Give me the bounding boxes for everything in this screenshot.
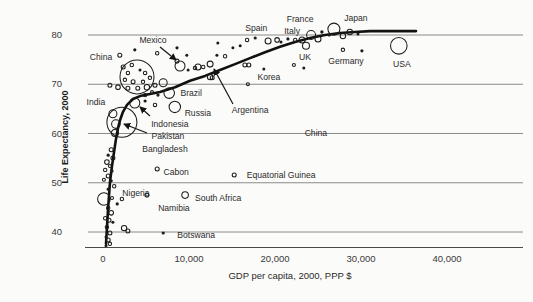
data-point (294, 38, 297, 41)
label-south-africa: South Africa (195, 193, 242, 203)
data-point (116, 202, 119, 205)
data-point (102, 178, 105, 181)
data-point-usa (391, 38, 408, 55)
y-axis-title: Life Expectancy, 2000 (60, 91, 70, 184)
data-point (185, 54, 188, 57)
x-tick-label: 0 (100, 253, 105, 264)
data-point (280, 40, 283, 43)
country-labels: ChinaIndiaUSAJapanNigeriaRussiaBrazilMex… (87, 13, 411, 240)
label-china: China (90, 52, 113, 62)
label-botswana: Botswana (177, 230, 215, 240)
data-point (111, 221, 114, 224)
data-point-argentina (207, 61, 213, 67)
data-point (148, 76, 151, 79)
label-italy: Italy (284, 26, 300, 36)
label-usa: USA (393, 59, 411, 69)
x-tick-label: 30,000 (346, 253, 375, 264)
data-point (231, 46, 234, 49)
label-mexico: Mexico (139, 35, 166, 45)
x-tick-label: 40,000 (432, 253, 461, 264)
label-indonesia: Indonesia (151, 119, 188, 129)
y-tick-label: 70 (51, 78, 62, 89)
arrow-mexico (160, 47, 176, 60)
data-point (105, 244, 108, 247)
label-russia: Russia (185, 108, 211, 118)
data-point (153, 103, 156, 106)
data-point (130, 63, 133, 66)
data-point (292, 64, 295, 67)
data-point (262, 68, 265, 71)
label-pakistan: Pakistan (151, 131, 184, 141)
label-uk: UK (299, 52, 311, 62)
data-point (175, 46, 178, 49)
data-point (239, 44, 242, 47)
label-equatorial-guinea: Equatorial Guinea (247, 170, 316, 180)
y-tick-label: 80 (51, 29, 62, 40)
data-point (131, 80, 135, 84)
label-bangladesh: Bangladesh (142, 144, 188, 154)
data-point (223, 55, 226, 58)
label-namibia: Namibia (158, 203, 190, 213)
data-point (123, 78, 126, 81)
data-point-equatorial-guinea (232, 173, 236, 177)
data-point (105, 160, 110, 165)
data-point (133, 48, 136, 51)
data-point (113, 185, 116, 188)
data-point (216, 41, 219, 44)
arrow-argentina (214, 69, 233, 104)
arrow-pakistan (124, 124, 147, 133)
data-point (110, 179, 113, 182)
data-point-spain (254, 36, 257, 39)
data-point (302, 67, 305, 70)
label-spain: Spain (245, 23, 267, 33)
data-point (116, 85, 121, 90)
data-point (107, 154, 110, 157)
data-point-botswana (162, 231, 165, 234)
data-point (118, 53, 122, 57)
data-point (360, 49, 363, 52)
y-tick-label: 40 (51, 226, 62, 237)
data-point (320, 30, 323, 33)
data-point (109, 148, 113, 152)
data-point (151, 91, 154, 94)
data-point-cabon (155, 167, 159, 171)
label-india: India (87, 97, 106, 107)
data-point-uk (303, 42, 310, 49)
data-point (136, 86, 140, 90)
data-point (141, 80, 144, 83)
data-point (245, 38, 248, 41)
label-japan: Japan (344, 13, 368, 23)
data-point (215, 54, 218, 57)
data-point (286, 37, 289, 40)
annotation-text: China (305, 128, 328, 138)
data-point (275, 38, 280, 43)
x-axis-title: GDP per capita, 2000, PPP $ (228, 270, 352, 281)
label-brazil: Brazil (180, 88, 202, 98)
data-point (202, 65, 205, 68)
data-point (187, 69, 190, 72)
data-point (357, 33, 360, 36)
data-point (111, 197, 114, 200)
data-point (108, 83, 112, 87)
label-korea: Korea (257, 72, 280, 82)
label-nigeria: Nigeria (122, 188, 149, 198)
data-point (110, 169, 113, 172)
label-france: France (287, 14, 314, 24)
data-point (107, 188, 110, 191)
data-point (340, 33, 345, 38)
data-point (156, 52, 159, 55)
data-point-mexico (175, 61, 185, 71)
data-point (156, 94, 159, 97)
label-argentina: Argentina (232, 105, 269, 115)
preston-curve-figure: ChinaIndiaUSAJapanNigeriaRussiaBrazilMex… (0, 0, 533, 302)
data-point (108, 242, 111, 245)
data-point-russia (169, 101, 180, 112)
life-expectancy-vs-gdp-chart: ChinaIndiaUSAJapanNigeriaRussiaBrazilMex… (0, 0, 533, 302)
data-point (144, 99, 147, 102)
data-point (104, 217, 107, 220)
data-point (153, 83, 157, 87)
label-germany: Germany (328, 56, 364, 66)
label-cabon: Cabon (164, 167, 190, 177)
data-point (265, 38, 271, 44)
data-point (108, 165, 111, 168)
